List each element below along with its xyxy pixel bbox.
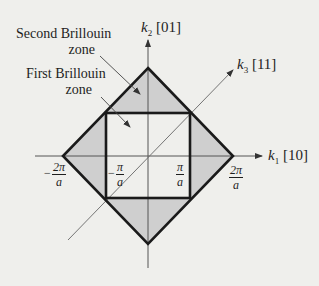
k1-subscript: 1 (275, 156, 280, 166)
brillouin-zone-diagram (0, 0, 319, 286)
k2-symbol: k (141, 19, 148, 35)
tick-denominator: a (176, 175, 184, 188)
k2-axis-label: k2 [01] (141, 20, 181, 41)
tick-neg-pi-over-a: − π a (116, 161, 124, 188)
tick-denominator: a (52, 175, 66, 188)
k1-direction: [10] (283, 147, 308, 163)
k1-symbol: k (268, 147, 275, 163)
k3-direction: [11] (252, 56, 276, 72)
tick-sign: − (44, 167, 51, 179)
tick-neg-2pi-over-a: − 2π a (52, 161, 66, 188)
second-zone-label-line2: zone (55, 43, 95, 57)
second-zone-pointer-arrow (100, 56, 140, 94)
tick-numerator: 2π (52, 161, 66, 175)
tick-denominator: a (116, 175, 124, 188)
k1-axis-label: k1 [10] (268, 148, 308, 169)
k3-symbol: k (237, 56, 244, 72)
k3-subscript: 3 (244, 65, 249, 75)
k2-subscript: 2 (148, 28, 153, 38)
second-zone-label-line1: Second Brillouin (16, 27, 111, 41)
tick-pi-over-a: π a (176, 161, 184, 188)
tick-denominator: a (229, 178, 243, 191)
k3-axis-label: k3 [11] (237, 57, 276, 78)
first-zone-label-line1: First Brillouin (26, 67, 106, 81)
first-zone-label-line2: zone (52, 83, 92, 97)
tick-sign: − (108, 167, 115, 179)
tick-numerator: 2π (229, 164, 243, 178)
tick-numerator: π (116, 161, 124, 175)
tick-numerator: π (176, 161, 184, 175)
k2-direction: [01] (156, 19, 181, 35)
tick-2pi-over-a: 2π a (229, 164, 243, 191)
